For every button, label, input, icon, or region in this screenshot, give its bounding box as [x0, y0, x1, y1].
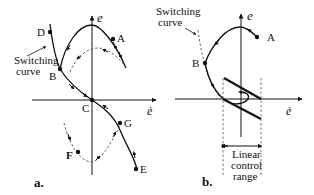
- point-d-label: D: [37, 26, 45, 38]
- panel-b-y-axis-label: e: [247, 8, 253, 23]
- point-b-label: B: [49, 70, 56, 82]
- point-a: [111, 37, 115, 41]
- point-c-label: C: [82, 102, 89, 114]
- panel-b-point-b-label: B: [192, 57, 199, 69]
- point-a-label: A: [117, 32, 125, 44]
- point-e: [134, 167, 138, 171]
- panel-b: e ė A B Switching curve Linear control r…: [156, 5, 302, 189]
- point-b: [58, 67, 62, 71]
- panel-b-x-axis-label: ė: [286, 104, 292, 118]
- panel-b-range-label-3: range: [233, 170, 258, 182]
- point-c: [90, 98, 94, 102]
- panel-a: e ė A B C D: [14, 10, 156, 190]
- phase-plane-figure: e ė A B C D: [0, 0, 314, 195]
- panel-a-y-axis-label: e: [97, 10, 103, 25]
- panel-a-switching-label-2: curve: [16, 65, 41, 77]
- panel-b-switching-curve: [198, 30, 220, 97]
- point-b-b: [203, 61, 207, 65]
- panel-a-x-axis-label: ė: [147, 104, 153, 118]
- point-g: [118, 121, 122, 125]
- point-f: [76, 150, 80, 154]
- point-d: [48, 30, 52, 34]
- panel-b-caption: b.: [202, 174, 212, 189]
- point-e-label: E: [140, 163, 147, 175]
- point-f-label: F: [66, 149, 73, 161]
- panel-b-switching-label-2: curve: [158, 16, 183, 28]
- point-g-label: G: [124, 117, 132, 129]
- point-a-b: [255, 35, 259, 39]
- panel-b-linear-boundary-upper: [224, 78, 261, 99]
- panel-b-linear-boundary-lower: [223, 99, 261, 119]
- panel-a-switching-curve: [50, 24, 137, 170]
- panel-a-caption: a.: [34, 175, 44, 190]
- panel-b-point-a-label: A: [267, 31, 275, 43]
